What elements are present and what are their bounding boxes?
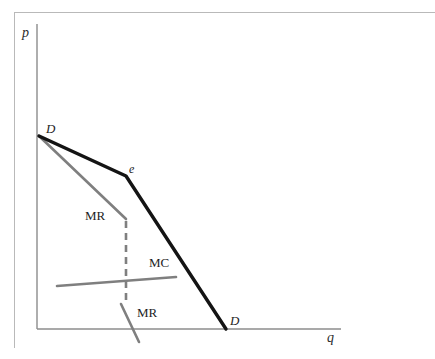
demand-lower-label: D: [230, 314, 239, 327]
figure-root: p q D e MR MC MR D: [0, 0, 435, 359]
caption-strip: [20, 349, 420, 358]
kink-point-label: e: [129, 163, 134, 175]
mr-lower-label: MR: [137, 306, 157, 319]
mr-upper-label: MR: [85, 209, 105, 222]
mc-curve: [57, 277, 176, 286]
y-axis-label: p: [22, 26, 29, 40]
x-axis-label: q: [327, 331, 334, 345]
demand-upper-label: D: [46, 122, 55, 135]
mc-label: MC: [149, 256, 169, 269]
mr-upper-curve: [39, 136, 126, 219]
plot-canvas: [0, 0, 435, 359]
